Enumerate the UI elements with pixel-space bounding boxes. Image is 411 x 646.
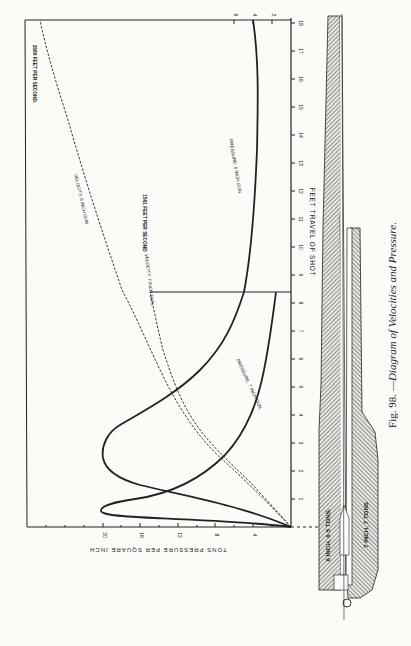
y-axis-label: TONS PRESSURE PER SQUARE INCH <box>89 547 227 553</box>
svg-text:4: 4 <box>298 414 304 417</box>
svg-text:4: 4 <box>252 534 258 537</box>
svg-text:Fig. 98. —Diagram of Vel: Fig. 98. —Diagram of Velocities and Pres… <box>386 222 398 428</box>
svg-text:8: 8 <box>214 534 220 537</box>
pressure-7-inch-curve <box>101 292 291 527</box>
y-axis-tick-labels-left: 4 8 12 16 20 <box>102 532 258 538</box>
velocity-7-label: VELOCITY, 7 INCH GUN. <box>144 253 155 306</box>
breech-block <box>334 575 348 590</box>
svg-text:5: 5 <box>298 386 304 389</box>
pressure-6-inch-curve <box>103 20 291 527</box>
svg-text:20: 20 <box>102 532 108 538</box>
svg-text:10: 10 <box>298 244 304 250</box>
svg-text:2: 2 <box>298 470 304 473</box>
gun-6-inch-label: 6 INCH, 6·5 TONS. <box>324 508 331 561</box>
velocity-6-inch-curve <box>40 20 291 527</box>
svg-text:9: 9 <box>298 274 304 277</box>
svg-text:8: 8 <box>298 302 304 305</box>
svg-text:13: 13 <box>298 160 304 166</box>
gun-7-inch-label: 7 INCH, 7 TONS <box>362 502 369 548</box>
chart-frame <box>25 18 345 527</box>
pressure-7-label: PRESSURE, 7 INCH GUN. <box>235 358 263 411</box>
svg-text:11: 11 <box>298 216 304 221</box>
caption-text: —Diagram of Velocities and Pressure. <box>386 222 398 392</box>
svg-text:6: 6 <box>233 14 239 17</box>
svg-text:2: 2 <box>271 14 277 17</box>
svg-text:4: 4 <box>252 14 258 17</box>
figure-page: 1 2 3 4 5 6 7 8 9 10 11 12 13 14 15 16 1… <box>0 0 411 646</box>
y-axis-ticks <box>46 523 272 527</box>
svg-text:16: 16 <box>139 532 145 538</box>
svg-text:12: 12 <box>177 532 183 538</box>
svg-text:1: 1 <box>298 498 304 501</box>
pressure-6-label: PRESSURE, 6 INCH GUN. <box>228 139 243 195</box>
svg-text:17: 17 <box>298 48 304 54</box>
velocity-7-end-label: 1561 FEET PER SECOND <box>142 194 147 252</box>
gun-6-inch-section <box>319 16 346 590</box>
velocity-6-end-label: 2680 FEET PER SECOND. <box>32 45 37 104</box>
svg-text:15: 15 <box>298 104 304 110</box>
y-axis-tick-labels-right: 6 4 2 <box>233 14 277 17</box>
caption-prefix: Fig. 98. <box>386 394 398 428</box>
figure-caption: Fig. 98. —Diagram of Velocities and Pres… <box>386 222 398 428</box>
svg-text:14: 14 <box>298 132 304 138</box>
svg-text:6: 6 <box>298 358 304 361</box>
svg-text:16: 16 <box>298 76 304 82</box>
velocity-6-label: VELOCITY, 6 INCH GUN. <box>73 174 90 226</box>
x-axis-label: FEET TRAVEL OF SHOT <box>309 188 316 277</box>
x-axis-tick-labels: 1 2 3 4 5 6 7 8 9 10 11 12 13 14 15 16 1… <box>298 20 304 500</box>
svg-text:3: 3 <box>298 442 304 445</box>
svg-text:12: 12 <box>298 188 304 194</box>
svg-text:7: 7 <box>298 330 304 333</box>
svg-text:18: 18 <box>298 20 304 26</box>
